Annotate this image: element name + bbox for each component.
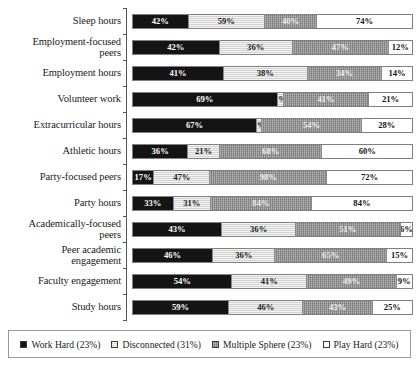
bar-segment[interactable]: 42%	[133, 15, 188, 28]
bar-segment[interactable]: 98%	[209, 171, 326, 184]
bar-segment[interactable]: 34%	[307, 67, 382, 80]
bar-segment[interactable]: 41%	[231, 275, 306, 288]
bar-row: 69%3%41%21%	[132, 86, 413, 112]
bar-segment[interactable]: 46%	[228, 301, 302, 314]
bar-segment[interactable]: 21%	[187, 145, 219, 158]
bar-segment[interactable]: 9%	[396, 275, 412, 288]
category-label-row: Study hours	[0, 294, 121, 320]
stacked-bar[interactable]: 36%21%68%60%	[132, 144, 413, 159]
bar-segment[interactable]: 25%	[372, 301, 412, 314]
bar-segment-value: 31%	[183, 198, 200, 208]
bar-segment[interactable]: 67%	[133, 119, 256, 132]
axis-tick	[123, 164, 127, 165]
stacked-bar[interactable]: 46%36%65%15%	[132, 248, 413, 263]
category-label: Sleep hours	[0, 15, 121, 26]
bar-segment-value: 68%	[262, 146, 279, 156]
bar-segment[interactable]: 51%	[295, 223, 400, 236]
bar-segment-value: 54%	[303, 120, 320, 130]
bar-segment[interactable]: 33%	[133, 197, 173, 210]
bar-row: 33%31%84%84%	[132, 190, 413, 216]
category-label-row: Extracurricular hours	[0, 112, 121, 138]
bar-segment[interactable]: 59%	[188, 15, 265, 28]
bar-row: 59%46%43%25%	[132, 294, 413, 320]
legend-swatch-icon	[212, 341, 219, 348]
bar-segment-value: 14%	[389, 68, 406, 78]
bar-row: 42%59%40%74%	[132, 8, 413, 34]
bar-segment[interactable]: 31%	[173, 197, 210, 210]
bar-segment-value: 46%	[164, 250, 181, 260]
category-label-row: Party hours	[0, 190, 121, 216]
bar-segment[interactable]: 36%	[133, 145, 187, 158]
bar-segment[interactable]: 36%	[221, 223, 295, 236]
category-label-row: Athletic hours	[0, 138, 121, 164]
category-label-row: Employment hours	[0, 60, 121, 86]
category-label: Study hours	[0, 301, 121, 312]
bar-segment[interactable]: 14%	[381, 67, 412, 80]
bar-segment[interactable]: 69%	[133, 93, 277, 106]
legend-label: Multiple Sphere (23%)	[223, 339, 311, 350]
bar-segment[interactable]: 68%	[219, 145, 322, 158]
axis-tick	[123, 86, 127, 87]
axis-tick	[123, 216, 127, 217]
bar-segment[interactable]: 40%	[264, 15, 316, 28]
bar-segment[interactable]: 41%	[283, 93, 368, 106]
bar-segment[interactable]: 17%	[133, 171, 153, 184]
stacked-bar[interactable]: 43%36%51%6%	[132, 222, 413, 237]
bar-row: 43%36%51%6%	[132, 216, 413, 242]
axis-tick	[123, 138, 127, 139]
bar-row: 67%3%54%28%	[132, 112, 413, 138]
stacked-bar[interactable]: 42%59%40%74%	[132, 14, 413, 29]
bar-segment[interactable]: 47%	[153, 171, 209, 184]
stacked-bar[interactable]: 41%38%34%14%	[132, 66, 413, 81]
bar-segment[interactable]: 43%	[133, 223, 221, 236]
bar-segment[interactable]: 47%	[292, 41, 388, 54]
bar-segment-value: 15%	[391, 250, 408, 260]
bar-segment-value: 69%	[196, 94, 213, 104]
stacked-bar[interactable]: 42%36%47%12%	[132, 40, 413, 55]
category-label: Academically-focused peers	[0, 218, 121, 241]
chart-legend: Work Hard (23%) Disconnected (31%) Multi…	[8, 330, 411, 358]
bar-segment[interactable]: 84%	[210, 197, 311, 210]
bar-segment[interactable]: 60%	[321, 145, 411, 158]
bar-segment-value: 98%	[260, 172, 277, 182]
bar-segment[interactable]: 28%	[361, 119, 412, 132]
bar-segment[interactable]: 46%	[133, 249, 212, 262]
category-label: Party hours	[0, 197, 121, 208]
bar-segment[interactable]: 84%	[311, 197, 412, 210]
bar-segment[interactable]: 21%	[368, 93, 412, 106]
bar-segment-value: 60%	[359, 146, 376, 156]
bar-segment[interactable]: 43%	[302, 301, 371, 314]
stacked-bar[interactable]: 59%46%43%25%	[132, 300, 413, 315]
stacked-bar[interactable]: 17%47%98%72%	[132, 170, 413, 185]
stacked-bar[interactable]: 54%41%49%9%	[132, 274, 413, 289]
category-label: Employment hours	[0, 67, 121, 78]
bar-segment-value: 41%	[317, 94, 334, 104]
bar-segment[interactable]: 65%	[274, 249, 386, 262]
bar-segment[interactable]: 59%	[133, 301, 228, 314]
legend-item-multiple-sphere: Multiple Sphere (23%)	[212, 339, 311, 350]
bar-segment-value: 59%	[218, 16, 235, 26]
bar-segment[interactable]: 54%	[261, 119, 360, 132]
stacked-bar[interactable]: 67%3%54%28%	[132, 118, 413, 133]
bar-segment[interactable]: 15%	[386, 249, 412, 262]
bar-row: 17%47%98%72%	[132, 164, 413, 190]
bar-segment[interactable]: 41%	[133, 67, 223, 80]
category-label-row: Party-focused peers	[0, 164, 121, 190]
bar-segment-value: 17%	[135, 172, 152, 182]
bar-segment-value: 49%	[343, 276, 360, 286]
stacked-bar[interactable]: 69%3%41%21%	[132, 92, 413, 107]
bar-segment[interactable]: 42%	[133, 41, 219, 54]
bar-segment[interactable]: 49%	[306, 275, 395, 288]
bar-segment[interactable]: 36%	[219, 41, 292, 54]
bar-segment[interactable]: 6%	[400, 223, 412, 236]
stacked-bar[interactable]: 33%31%84%84%	[132, 196, 413, 211]
bar-segment[interactable]: 36%	[212, 249, 274, 262]
bar-segment[interactable]: 72%	[326, 171, 412, 184]
bar-segment[interactable]: 74%	[316, 15, 412, 28]
bar-segment[interactable]: 54%	[133, 275, 231, 288]
bar-segment-value: 72%	[361, 172, 378, 182]
category-label-row: Academically-focused peers	[0, 216, 121, 242]
category-label: Volunteer work	[0, 93, 121, 104]
bar-segment[interactable]: 38%	[223, 67, 306, 80]
bar-segment[interactable]: 12%	[388, 41, 412, 54]
